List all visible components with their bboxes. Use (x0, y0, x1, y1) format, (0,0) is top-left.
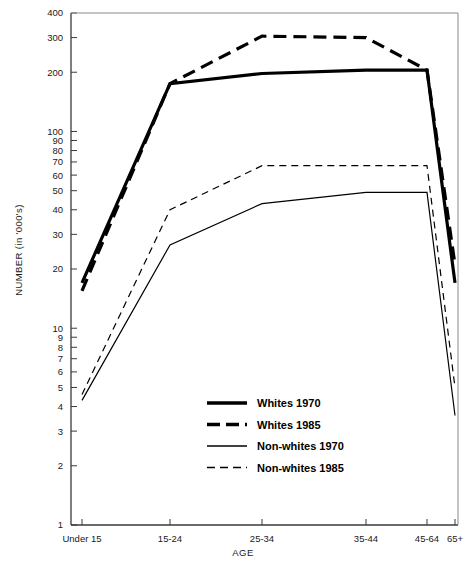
y-tick-label: 6 (58, 366, 63, 377)
x-category-label: 35-44 (354, 533, 378, 544)
y-tick-label: 3 (58, 426, 63, 437)
y-tick-label: 5 (58, 382, 63, 393)
x-category-label: Under 15 (62, 533, 101, 544)
y-tick-label: 50 (52, 185, 63, 196)
y-tick-label: 60 (52, 170, 63, 181)
legend-label-2: Non-whites 1970 (257, 440, 344, 452)
log-line-chart: 400300200100908070605040302010987654321 … (0, 0, 475, 566)
legend-label-1: Whites 1985 (257, 419, 321, 431)
chart-container: 400300200100908070605040302010987654321 … (0, 0, 475, 566)
y-tick-label: 40 (52, 204, 63, 215)
y-tick-label: 4 (58, 401, 63, 412)
y-tick-label: 30 (52, 229, 63, 240)
y-tick-label: 300 (47, 32, 63, 43)
y-tick-label: 8 (58, 342, 63, 353)
legend-label-3: Non-whites 1985 (257, 462, 344, 474)
legend-label-0: Whites 1970 (257, 397, 321, 409)
y-tick-label: 1 (58, 519, 63, 530)
y-tick-label: 400 (47, 7, 63, 18)
x-category-label: 15-24 (158, 533, 182, 544)
y-tick-label: 70 (52, 156, 63, 167)
y-tick-label: 7 (58, 353, 63, 364)
y-tick-label: 200 (47, 67, 63, 78)
y-axis-title: NUMBER (in '000's) (13, 204, 24, 296)
x-category-label: 25-34 (250, 533, 274, 544)
x-axis-title: AGE (232, 547, 253, 558)
y-tick-label: 2 (58, 460, 63, 471)
y-tick-label: 80 (52, 145, 63, 156)
x-category-label: 45-64 (415, 533, 439, 544)
y-tick-label: 20 (52, 263, 63, 274)
x-category-label: 65+ (447, 533, 464, 544)
